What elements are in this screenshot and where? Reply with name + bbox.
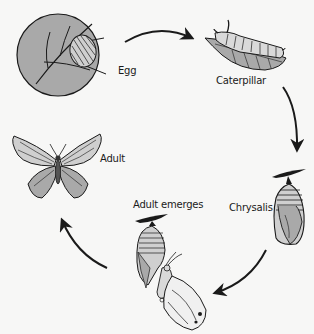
- label-adult: Adult: [100, 153, 125, 164]
- chrysalis-illustration: [272, 169, 306, 244]
- arrow-chrysalis-to-adult-emerges: [215, 250, 266, 293]
- arrow-caterpillar-to-chrysalis: [283, 87, 297, 150]
- arrow-adult-emerges-to-adult: [62, 220, 107, 268]
- label-caterpillar: Caterpillar: [216, 75, 266, 86]
- egg-illustration: [17, 14, 106, 96]
- label-adult-emerges: Adult emerges: [133, 199, 203, 210]
- label-egg: Egg: [118, 65, 136, 76]
- adult-butterfly-illustration: [13, 134, 102, 198]
- label-chrysalis: Chrysalis: [229, 202, 273, 213]
- arrow-egg-to-caterpillar: [125, 31, 192, 42]
- life-cycle-diagram: [0, 0, 314, 334]
- caterpillar-illustration: [205, 20, 286, 70]
- adult-emerges-illustration: [135, 214, 206, 330]
